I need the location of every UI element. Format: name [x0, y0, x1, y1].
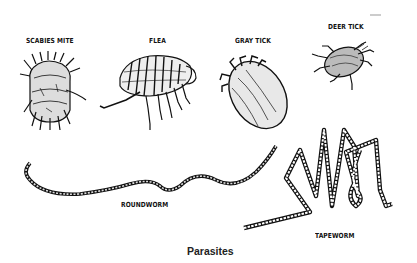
- label-roundworm: ROUNDWORM: [121, 201, 168, 209]
- label-tapeworm: TAPEWORM: [315, 232, 354, 240]
- tapeworm-illustration: [244, 130, 392, 228]
- gray-tick-illustration: [217, 51, 299, 140]
- label-scabies-mite: SCABIES MITE: [26, 37, 74, 45]
- figure-caption: Parasites: [187, 245, 234, 257]
- deer-tick-illustration: [312, 42, 374, 90]
- roundworm-illustration: [26, 146, 276, 194]
- label-flea: FLEA: [149, 37, 166, 45]
- flea-illustration: [100, 56, 196, 130]
- label-gray-tick: GRAY TICK: [235, 37, 271, 45]
- scabies-mite-illustration: [20, 51, 86, 130]
- label-deer-tick: DEER TICK: [328, 23, 364, 31]
